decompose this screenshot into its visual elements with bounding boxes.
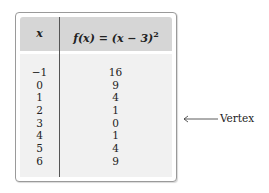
table-row: 69 xyxy=(20,155,172,168)
cell-f: 9 xyxy=(59,155,172,168)
table-row: 41 xyxy=(20,129,172,142)
cell-x: 3 xyxy=(20,117,59,130)
header-fx: f(x) = (x − 3)2 xyxy=(60,17,172,51)
cell-x: 4 xyxy=(20,129,59,142)
cell-f: 4 xyxy=(59,142,172,155)
table-row-vertex: 30 xyxy=(20,117,172,130)
header-fx-text: f(x) = (x − 3) xyxy=(73,32,153,45)
cell-f: 9 xyxy=(59,79,172,92)
header-x: x xyxy=(20,17,59,51)
vertex-label: Vertex xyxy=(220,111,254,125)
table-row: −116 xyxy=(20,66,172,79)
cell-x: 2 xyxy=(20,104,59,117)
cell-x: 0 xyxy=(20,79,59,92)
cell-f: 0 xyxy=(59,117,172,130)
header-fx-exponent: 2 xyxy=(153,29,159,39)
cell-f: 1 xyxy=(59,129,172,142)
table-rows: −116 09 14 21 30 41 54 69 xyxy=(20,66,172,168)
cell-x: −1 xyxy=(20,66,59,79)
table-row: 54 xyxy=(20,142,172,155)
cell-x: 5 xyxy=(20,142,59,155)
left-arrow-icon xyxy=(182,114,218,124)
cell-f: 16 xyxy=(59,66,172,79)
cell-f: 1 xyxy=(59,104,172,117)
cell-f: 4 xyxy=(59,91,172,104)
table-row: 14 xyxy=(20,91,172,104)
cell-x: 1 xyxy=(20,91,59,104)
table-row: 09 xyxy=(20,79,172,92)
function-table: x f(x) = (x − 3)2 −116 09 14 21 30 41 54… xyxy=(15,12,177,182)
cell-x: 6 xyxy=(20,155,59,168)
table-row: 21 xyxy=(20,104,172,117)
